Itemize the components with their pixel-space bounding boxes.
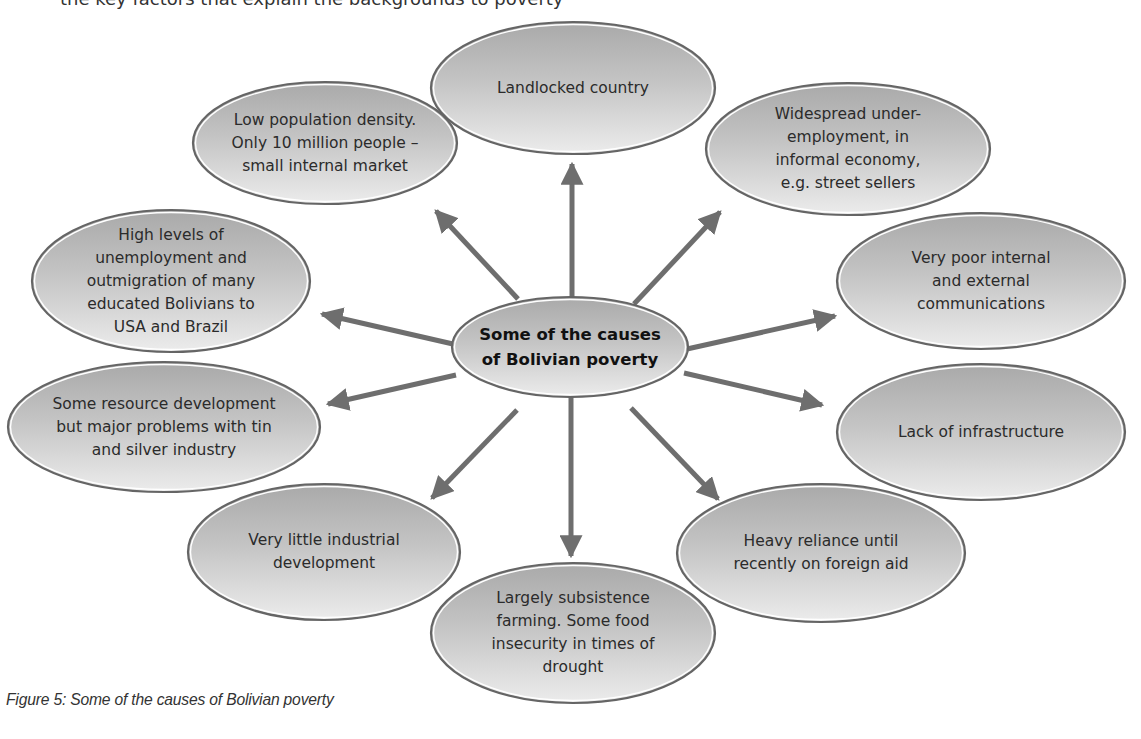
cause-node-underemployment [706,83,990,215]
cause-node-subsistence-farming [431,563,715,703]
arrow-to-communications [687,316,835,349]
cause-node-low-population [193,82,457,204]
center-node [452,297,688,397]
cause-node-resource-development [8,362,320,492]
cause-node-industrial-development [188,484,460,620]
cause-node-infrastructure [837,364,1125,500]
cause-node-unemployment-outmigration [32,210,310,352]
figure-caption: Figure 5: Some of the causes of Bolivian… [6,690,334,710]
arrow-to-foreign-aid [631,408,718,499]
cause-node-landlocked [431,22,715,154]
arrow-to-resource-development [328,375,456,404]
causes-diagram [0,0,1141,739]
arrow-to-infrastructure [684,373,822,405]
nodes-layer [8,22,1125,703]
arrow-to-unemployment-outmigration [322,314,453,344]
arrow-to-underemployment [634,212,720,304]
arrow-to-industrial-development [432,410,517,498]
arrow-to-low-population [436,211,518,299]
cause-node-communications [837,213,1125,349]
cause-node-foreign-aid [677,484,965,622]
